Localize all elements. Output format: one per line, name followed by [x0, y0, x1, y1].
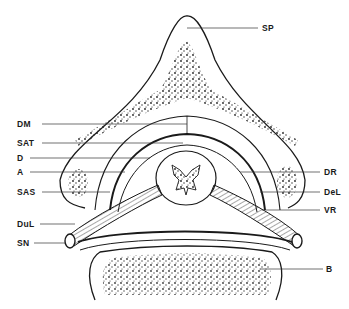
label-sp: SP — [262, 23, 274, 33]
label-vr: VR — [324, 205, 336, 215]
canal-floor — [78, 232, 292, 243]
bone-stipple-upper — [75, 40, 298, 146]
vertebral-body-stipple — [103, 254, 271, 296]
label-del: DeL — [324, 187, 341, 197]
diagram-canvas: SP DM SAT D A SAS DuL SN DR DeL VR B — [0, 0, 349, 309]
label-dul: DuL — [17, 219, 34, 229]
bone-stipple-right — [277, 166, 297, 198]
bone-stipple-left — [68, 169, 88, 197]
label-sas: SAS — [17, 187, 35, 197]
label-dr: DR — [324, 167, 337, 177]
label-dm: DM — [17, 119, 31, 129]
label-b: B — [326, 264, 332, 274]
spinal-cross-section-drawing — [0, 0, 349, 309]
label-a: A — [17, 167, 23, 177]
label-d: D — [17, 153, 23, 163]
label-sn: SN — [17, 238, 29, 248]
label-sat: SAT — [17, 138, 34, 148]
